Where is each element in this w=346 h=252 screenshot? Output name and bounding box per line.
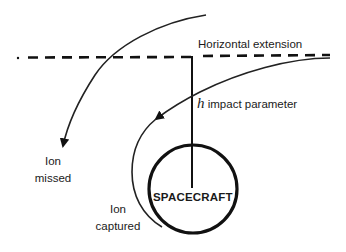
- h-symbol: h: [197, 95, 205, 111]
- ion-captured-label: Ion captured: [86, 202, 150, 233]
- ion-captured-line2: captured: [86, 219, 150, 233]
- horizontal-extension-label: Horizontal extension: [198, 37, 302, 51]
- ion-missed-trajectory: [63, 15, 206, 146]
- spacecraft-label: SPACECRAFT: [153, 190, 233, 204]
- ion-missed-line2: missed: [26, 171, 80, 185]
- ion-missed-line1: Ion: [26, 154, 80, 168]
- impact-parameter-line: [181, 57, 192, 188]
- impact-parameter-text: impact parameter: [208, 98, 297, 110]
- impact-parameter-label: h impact parameter: [197, 96, 297, 111]
- ion-missed-label: Ion missed: [26, 154, 80, 185]
- ion-captured-line1: Ion: [86, 202, 150, 216]
- horizontal-extension-line: [17, 55, 330, 59]
